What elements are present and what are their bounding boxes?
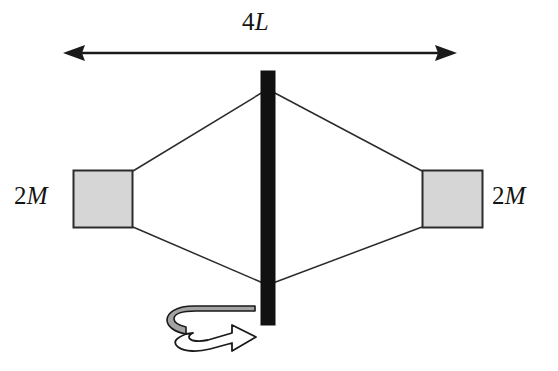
rod-upper-right xyxy=(273,92,422,171)
rod-lower-left xyxy=(133,227,263,283)
mass-block-left xyxy=(74,171,133,228)
physics-figure: 4L 2M 2M xyxy=(0,0,558,371)
span-label-symbol: L xyxy=(255,8,269,35)
figure-canvas xyxy=(0,0,558,371)
rotation-arrow-icon xyxy=(167,306,256,351)
mass-block-right xyxy=(423,171,483,228)
dimension-span-group xyxy=(63,45,457,61)
arrow-left-icon xyxy=(63,45,85,61)
rotation-arrowhead xyxy=(175,325,256,351)
mass-label-right: 2M xyxy=(492,182,526,210)
span-label-prefix: 4 xyxy=(242,8,255,35)
mass-label-left-symbol: M xyxy=(27,182,48,209)
mass-label-left: 2M xyxy=(14,182,48,210)
rod-upper-left xyxy=(133,92,263,171)
rod-lower-right xyxy=(273,227,422,283)
arrow-right-icon xyxy=(435,45,457,61)
mass-label-right-prefix: 2 xyxy=(492,182,505,209)
span-label: 4L xyxy=(242,8,269,36)
rotation-axis-bar xyxy=(261,71,275,325)
rod-group xyxy=(133,92,422,283)
mass-label-left-prefix: 2 xyxy=(14,182,27,209)
mass-label-right-symbol: M xyxy=(505,182,526,209)
